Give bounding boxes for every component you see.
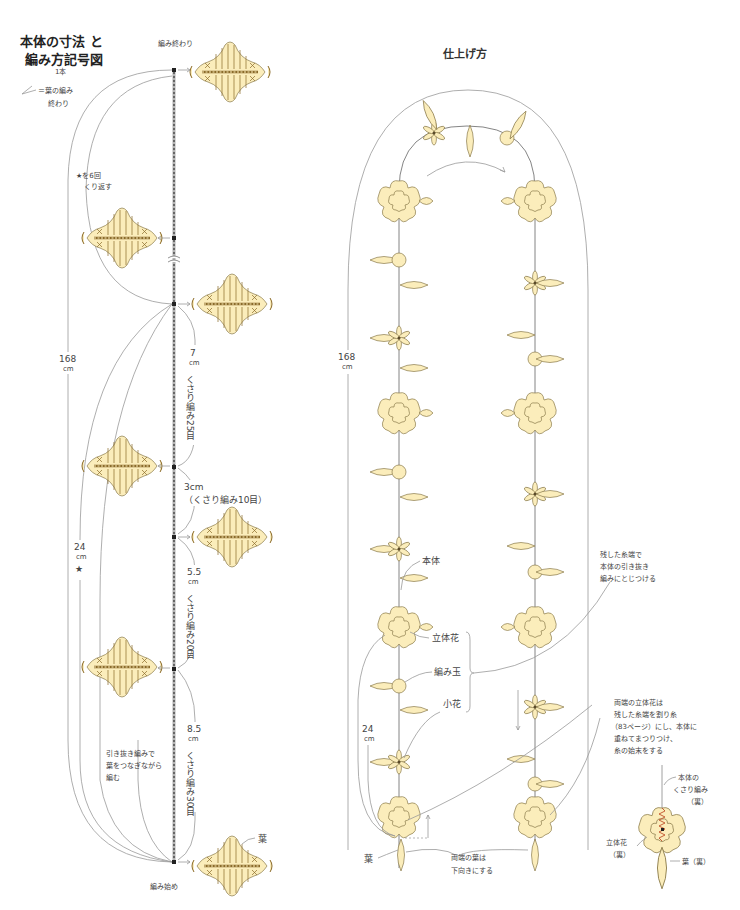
repeat-note-line1: ★を6回 — [76, 172, 101, 180]
leaf — [507, 756, 535, 763]
flower3d — [378, 393, 420, 434]
leaf — [400, 707, 428, 714]
ball — [392, 465, 406, 479]
detail-back-view: 本体の くさり編み （裏） 立体花 （裏） 葉（裏） — [606, 765, 710, 889]
leaf-motif — [82, 208, 162, 268]
flower3d-label: 立体花 — [432, 632, 459, 643]
flower3d — [378, 607, 420, 648]
leaf-motif — [82, 436, 162, 496]
bottom-length: 24 — [362, 724, 374, 734]
flower3d — [514, 607, 556, 648]
leaf — [507, 332, 535, 339]
join-note-line3: 編む — [106, 773, 120, 782]
leaf — [400, 282, 428, 289]
seg2-desc: （くさり編み10目） — [184, 494, 267, 505]
flower3d — [514, 797, 556, 838]
repeat-length: 24 — [74, 542, 86, 552]
up-arrow-icon — [426, 815, 430, 838]
repeat-unit: cm — [76, 553, 87, 561]
seg4-unit: cm — [188, 735, 199, 743]
detail-body-line3: （裏） — [687, 797, 708, 806]
seg3-unit: cm — [188, 578, 199, 586]
seg4-desc: くさり編み30目 — [185, 751, 195, 816]
right-total-length: 168 — [338, 352, 355, 362]
bottom-unit: cm — [364, 735, 375, 743]
end-label: 編み終わり — [158, 39, 193, 48]
ball-label: 編み玉 — [434, 666, 461, 677]
leaf — [507, 543, 535, 550]
leaf — [420, 99, 440, 131]
seg2-length: 3cm — [184, 482, 203, 492]
flower3d — [514, 181, 556, 222]
total-length: 168 — [59, 354, 76, 364]
thread-note-line2: 本体の引き抜き — [600, 562, 649, 571]
detail-leaf: 葉（裏） — [682, 857, 710, 866]
leaf-motif — [190, 42, 270, 102]
leaf — [501, 624, 515, 631]
leaf-label: 葉 — [258, 833, 267, 844]
leaf — [400, 494, 428, 501]
join-note-line2: 葉をつなぎながら — [106, 761, 162, 770]
leaf-motif — [82, 637, 162, 697]
right-total-unit: cm — [342, 363, 353, 371]
down-arrow-icon — [516, 690, 520, 730]
leaf-motif — [192, 507, 272, 567]
leaf — [400, 365, 428, 372]
leaf — [532, 839, 539, 871]
ends-note-line2: 残した糸端を割り糸 — [614, 710, 677, 719]
flower3d — [378, 181, 420, 222]
leaf — [507, 109, 529, 140]
seg1-unit: cm — [189, 359, 200, 367]
leaf — [501, 198, 515, 205]
direction-arrow-icon — [427, 162, 505, 176]
ends-note-line4: 重ねてまつりつけ、 — [614, 735, 677, 743]
start-label: 編み始め — [150, 882, 178, 891]
leaves-down-line2: 下向きにする — [451, 866, 493, 875]
flower3d — [514, 393, 556, 434]
body-label: 本体 — [422, 555, 440, 566]
leaf — [419, 198, 433, 205]
total-unit: cm — [63, 365, 74, 373]
left-title-line2: 編み方記号図 — [25, 52, 103, 67]
detail-flower-line2: （裏） — [609, 850, 630, 859]
ball — [392, 679, 406, 693]
join-note-line1: 引き抜き編みで — [106, 749, 155, 758]
repeat-note-line2: くり返す — [84, 183, 112, 191]
legend-text2: 終わり — [48, 99, 69, 108]
ends-note-line3: （83ページ）にし、本体に — [611, 722, 697, 731]
legend-text: ＝葉の編み — [38, 86, 73, 95]
seg3-desc: くさり編み20目 — [185, 594, 195, 659]
leaf-motif — [192, 274, 272, 334]
right-panel: 仕上げ方 168 cm — [337, 47, 710, 889]
leaf — [419, 410, 433, 417]
right-leaf-label: 葉 — [364, 853, 373, 864]
ends-note-line5: 糸の始末をする — [614, 746, 663, 755]
leaf — [419, 624, 433, 631]
seg3-length: 5.5 — [187, 567, 201, 577]
detail-body-line1: 本体の — [678, 773, 699, 782]
ball — [392, 253, 406, 267]
detail-flower-line1: 立体花 — [606, 838, 627, 847]
small-flower-label: 小花 — [443, 698, 461, 709]
seg4-length: 8.5 — [187, 724, 201, 734]
right-title: 仕上げ方 — [442, 47, 487, 61]
leaf-end-symbol-icon — [22, 86, 36, 94]
detail-body-line2: くさり編み — [673, 785, 708, 794]
left-title-line1: 本体の寸法 と — [20, 34, 103, 49]
crochet-diagram: 本体の寸法 と 編み方記号図 1本 ＝葉の編み 終わり 編み終わり 編み始め — [0, 0, 740, 910]
leaf-motif — [192, 836, 272, 896]
thread-note-line1: 残した糸端で — [600, 550, 642, 559]
seg1-length: 7 — [190, 348, 196, 358]
leaf — [501, 410, 515, 417]
leaf — [467, 125, 474, 157]
left-panel: 本体の寸法 と 編み方記号図 1本 ＝葉の編み 終わり 編み終わり 編み始め — [20, 34, 272, 896]
leaves-down-line1: 両端の葉は — [451, 853, 486, 862]
brace — [466, 632, 474, 712]
star-icon: ★ — [75, 564, 83, 574]
thread-note-line3: 編みにとじつける — [600, 574, 656, 583]
ends-note-line1: 両端の立体花は — [614, 698, 663, 707]
quantity: 1本 — [55, 67, 66, 76]
seg1-desc: くさり編み25目 — [185, 375, 195, 440]
